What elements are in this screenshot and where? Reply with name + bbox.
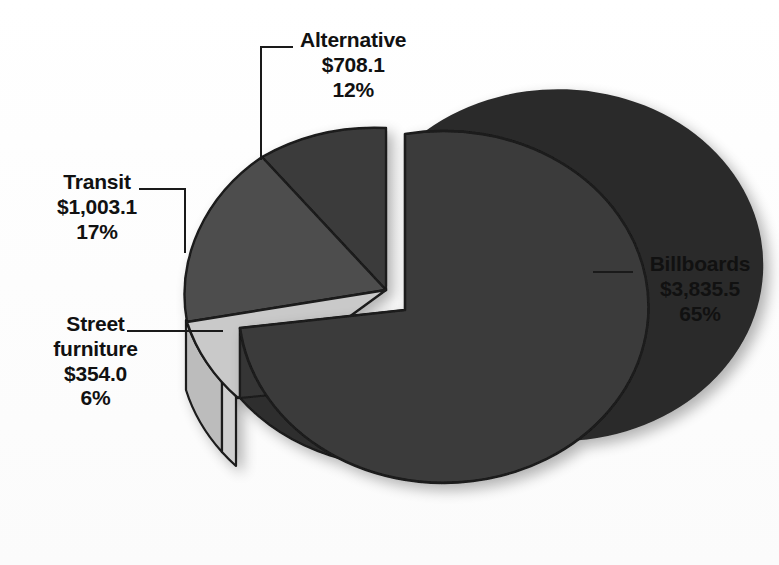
label-street-furniture-name-line1: Street (18, 312, 173, 337)
label-street-furniture-percent: 6% (18, 386, 173, 411)
label-transit: Transit $1,003.1 17% (22, 170, 172, 244)
label-transit-value: $1,003.1 (22, 195, 172, 220)
label-billboards-percent: 65% (634, 302, 766, 327)
label-billboards: Billboards $3,835.5 65% (634, 252, 766, 326)
label-street-furniture-name-line2: furniture (18, 337, 173, 362)
label-transit-name: Transit (22, 170, 172, 195)
label-alternative-name: Alternative (300, 28, 406, 53)
pie-chart-figure: ʔ (0, 0, 779, 565)
label-alternative: Alternative $708.1 12% (300, 28, 406, 102)
label-transit-percent: 17% (22, 220, 172, 245)
label-alternative-value: $708.1 (300, 53, 406, 78)
label-billboards-value: $3,835.5 (634, 277, 766, 302)
label-alternative-percent: 12% (300, 78, 406, 103)
label-street-furniture: Street furniture $354.0 6% (18, 312, 173, 411)
label-billboards-name: Billboards (634, 252, 766, 277)
label-street-furniture-value: $354.0 (18, 362, 173, 387)
